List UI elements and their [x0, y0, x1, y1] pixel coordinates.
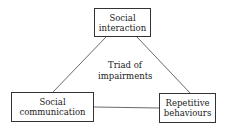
center-label-line1: Triad of [98, 60, 152, 71]
node-label-line2: interaction [99, 23, 146, 33]
node-label-line1: Social [39, 97, 65, 107]
center-label-line2: impairments [98, 71, 152, 82]
node-label-line2: communication [19, 107, 85, 117]
node-label-line2: behaviours [164, 108, 212, 118]
edge-left-right [94, 107, 159, 108]
node-label-line1: Repetitive [165, 98, 209, 108]
node-social-interaction: Social interaction [94, 8, 151, 37]
center-label: Triad of impairments [98, 60, 152, 82]
node-label-line1: Social [109, 13, 135, 23]
node-repetitive-behaviours: Repetitive behaviours [159, 93, 216, 123]
node-social-communication: Social communication [11, 92, 94, 122]
